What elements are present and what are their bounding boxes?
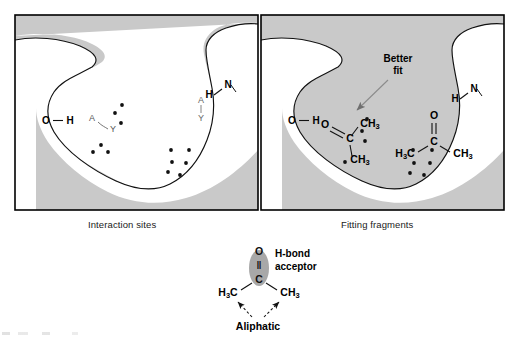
- legend-hbond-acceptor-line2: acceptor: [275, 261, 317, 272]
- legend-aliphatic-label: Aliphatic: [236, 320, 280, 332]
- legend-carbon-label: C: [255, 273, 263, 285]
- better-fit-line2: fit: [393, 65, 403, 76]
- acceptor-a-label: A: [89, 113, 95, 123]
- donor-hydrogen-label-p2: H: [312, 115, 319, 126]
- legend-oxygen-label: O: [255, 245, 263, 257]
- panel-caption-interaction-sites: Interaction sites: [88, 219, 156, 230]
- fragment1-oxygen-label: O: [321, 118, 329, 130]
- scan-artifact: [2, 332, 112, 335]
- donor-oxygen-label: O: [42, 115, 50, 126]
- donor-nitrogen-label-p2: N: [470, 83, 477, 94]
- acceptor-y-label: Y: [110, 124, 116, 134]
- panel-fitting-fragments: O H H N O C: [261, 15, 504, 210]
- panel-interaction-sites: O H A Y A Y H N: [15, 15, 258, 210]
- legend-acetone-key: O ‖ C H3C CH3 H-bond acceptor Aliphatic: [218, 245, 316, 332]
- figure-root: O H A Y A Y H N: [0, 0, 516, 339]
- panel-caption-fitting-fragments: Fitting fragments: [341, 219, 413, 230]
- donor-oxygen-label-p2: O: [288, 115, 296, 126]
- aliphatic-arrow-right: [264, 302, 279, 317]
- fragment2-oxygen-label: O: [430, 109, 438, 121]
- legend-double-bond-symbol: ‖: [257, 260, 262, 271]
- acceptor-a-label-vertical: A: [198, 95, 204, 105]
- donor-nitrogen-label: N: [224, 79, 231, 90]
- better-fit-line1: Better: [384, 53, 413, 64]
- legend-bond-left-methyl: [241, 283, 252, 290]
- donor-hydrogen-label-right-p2: H: [451, 93, 458, 104]
- aliphatic-arrow-left: [238, 302, 252, 317]
- figure-svg: O H A Y A Y H N: [0, 0, 516, 339]
- donor-hydrogen-label: H: [66, 115, 73, 126]
- legend-bond-right-methyl: [266, 283, 277, 290]
- legend-methyl-right-label: CH3: [280, 286, 299, 300]
- acceptor-y-label-vertical: Y: [198, 113, 204, 123]
- legend-methyl-left-label: H3C: [218, 286, 238, 300]
- fragment2-carbonyl-carbon-label: C: [430, 135, 438, 147]
- donor-hydrogen-label-right: H: [205, 89, 212, 100]
- legend-hbond-acceptor-line1: H-bond: [275, 248, 310, 259]
